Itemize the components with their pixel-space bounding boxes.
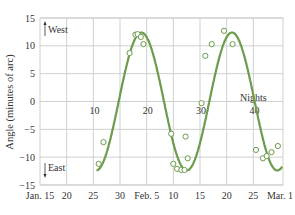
y-tick-label: 15 (25, 13, 35, 24)
y-tick-label: −5 (24, 124, 35, 135)
x-tick-label: Jan. 15 (26, 190, 54, 201)
data-point (209, 42, 214, 47)
y-axis-label: Angle (minutes of arc) (4, 54, 16, 150)
data-point (127, 50, 132, 55)
data-point (138, 34, 143, 39)
y-tick-label: −15 (19, 180, 35, 191)
x-tick-label: 25 (88, 190, 98, 201)
x-tick-label: Mar. 1 (267, 190, 293, 201)
data-point (269, 150, 274, 155)
data-point (101, 140, 106, 145)
night-number-label: 10 (89, 105, 99, 116)
x-tick-label: 15 (195, 190, 205, 201)
chart: 151050−5−10−15 Jan. 15202530Feb. 5101520… (0, 0, 295, 215)
night-number-label: 20 (143, 105, 153, 116)
y-tick-label: 0 (30, 96, 35, 107)
x-tick-label: 20 (62, 190, 72, 201)
data-point (253, 147, 258, 152)
y-tick-label: 10 (25, 40, 35, 51)
data-point (141, 42, 146, 47)
data-point (221, 28, 226, 33)
y-tick-label: −10 (19, 152, 35, 163)
data-point (169, 131, 174, 136)
x-tick-label: Feb. 5 (134, 190, 159, 201)
data-point (96, 161, 101, 166)
data-point (203, 53, 208, 58)
y-tick-label: 5 (30, 68, 35, 79)
east-label: East (48, 162, 65, 173)
data-point (264, 153, 269, 158)
x-axis-ticks: Jan. 15202530Feb. 510152025Mar. 1 (26, 190, 293, 201)
west-label: West (48, 24, 68, 35)
y-axis-ticks: 151050−5−10−15 (19, 13, 35, 191)
data-point (185, 156, 190, 161)
x-tick-label: 20 (222, 190, 232, 201)
data-point (230, 42, 235, 47)
night-number-label: 30 (196, 105, 206, 116)
x-tick-label: 10 (168, 190, 178, 201)
data-point (182, 167, 187, 172)
data-point (275, 143, 280, 148)
x-tick-label: 30 (115, 190, 125, 201)
data-point (171, 161, 176, 166)
data-point (183, 134, 188, 139)
data-point (199, 101, 204, 106)
x-tick-label: 25 (248, 190, 258, 201)
